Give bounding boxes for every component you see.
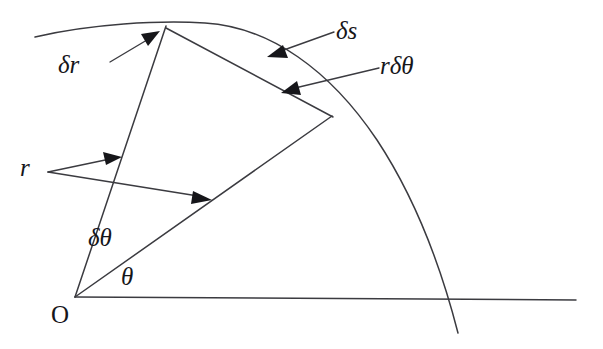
diagram-canvas: δr δs rδθ r δθ θ O: [0, 0, 603, 349]
delta-s-arrow-icon: [267, 45, 288, 58]
label-r: r: [20, 155, 30, 180]
baseline-axis: [75, 297, 576, 300]
label-theta: θ: [121, 264, 133, 289]
label-delta-theta: δθ: [88, 225, 112, 250]
r-upper-arrow-icon: [103, 152, 122, 165]
r-upper-leader: [48, 159, 110, 172]
r-delta-theta-leader: [295, 68, 379, 88]
label-delta-r: δr: [58, 52, 79, 77]
r-delta-theta-arrow-icon: [281, 81, 301, 95]
label-r-delta-theta: rδθ: [380, 53, 414, 78]
label-delta-s: δs: [336, 18, 357, 43]
delta-r-arrow-icon: [141, 31, 160, 46]
radius-outer-line: [75, 26, 166, 297]
radius-inner-line: [75, 116, 332, 297]
r-lower-leader: [48, 172, 198, 196]
label-origin: O: [51, 302, 69, 327]
polar-arc-diagram: [0, 0, 603, 349]
delta-s-leader: [281, 32, 334, 51]
